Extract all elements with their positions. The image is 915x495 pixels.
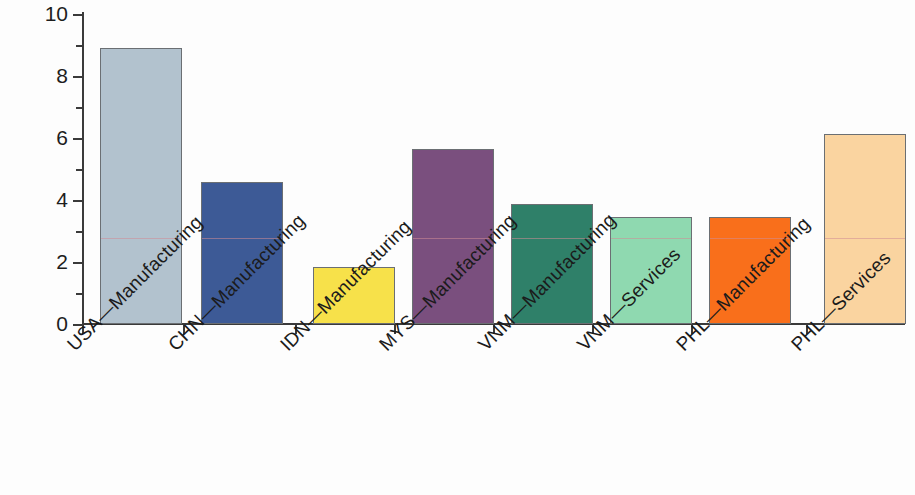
scan-streak	[825, 238, 905, 239]
bar-chart-figure: 0246810 USA—ManufacturingCHN—Manufacturi…	[0, 0, 915, 495]
scan-streak	[611, 238, 691, 239]
plot-area: 0246810	[82, 14, 902, 324]
y-tick-mark	[76, 169, 82, 171]
y-tick-label: 8	[56, 64, 68, 88]
y-tick-label: 0	[56, 312, 68, 336]
y-tick-mark	[76, 293, 82, 295]
y-tick-mark	[73, 14, 82, 16]
y-tick-mark	[73, 262, 82, 264]
y-tick-label: 2	[56, 250, 68, 274]
y-tick-mark	[76, 231, 82, 233]
y-tick-label: 4	[56, 188, 68, 212]
y-tick-mark	[73, 200, 82, 202]
y-tick-mark	[76, 107, 82, 109]
y-tick-label: 6	[56, 126, 68, 150]
y-tick-mark	[73, 76, 82, 78]
y-tick-mark	[76, 45, 82, 47]
y-tick-label: 10	[45, 2, 68, 26]
y-tick-mark	[73, 138, 82, 140]
